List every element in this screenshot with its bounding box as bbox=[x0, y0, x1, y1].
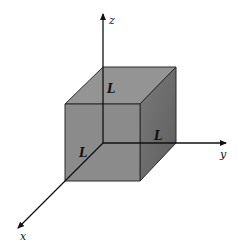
z-axis-label: z bbox=[108, 14, 115, 27]
x-axis bbox=[18, 181, 65, 228]
cube-diagram: z y x L L L bbox=[0, 0, 238, 249]
edge-label-y: L bbox=[153, 129, 162, 143]
x-axis-label: x bbox=[20, 230, 27, 243]
y-axis-label: y bbox=[219, 148, 227, 161]
edge-label-z: L bbox=[106, 82, 115, 96]
edge-label-x: L bbox=[78, 146, 87, 160]
